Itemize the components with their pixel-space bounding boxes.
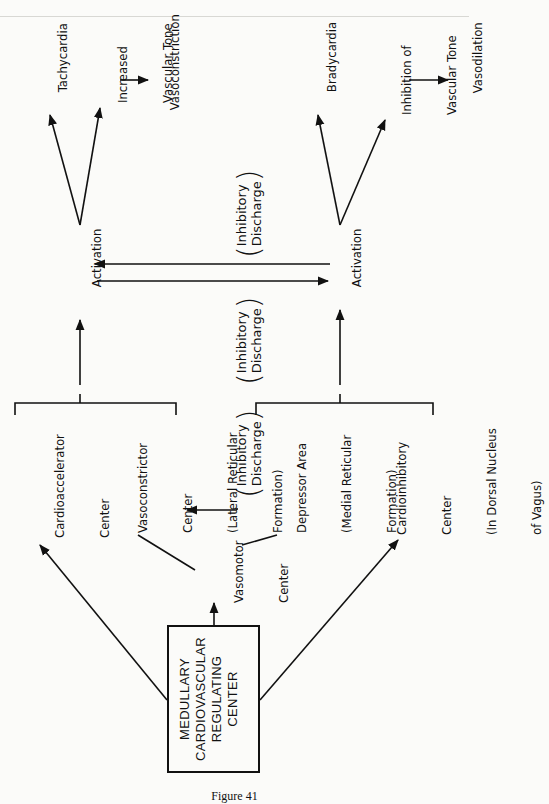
activation-right-label: Activation [334,229,379,302]
vasomotor-center-label: Vasomotor Center [201,541,321,604]
arrow-to-bradycardia [318,115,340,225]
line-vasomotor-to-vasoconstrictor [138,535,195,570]
arrow-to-cardioaccelerator [40,545,167,700]
activation-left-label: Activation [74,229,119,302]
figure-caption: Figure 41 [0,789,469,804]
left-bracket [15,403,176,415]
arrow-to-increased-vascular-tone [80,108,100,225]
arrow-to-tachycardia [50,115,80,225]
tachycardia-label: Tachycardia [40,23,85,107]
bradycardia-label: Bradycardia [309,22,354,107]
inhibitory-discharge-middle-label: (InhibitoryDischarge) [204,296,294,385]
vasoconstriction-label: Vasoconstriction [152,14,197,125]
arrow-to-inhibition-vascular-tone [340,120,385,225]
cardioinhibitory-center-label: Cardioinhibitory Center (In Dorsal Nucle… [364,428,549,535]
vasodilation-label: Vasodilation [455,22,500,108]
medullary-center-label: MEDULLARY CARDIOVASCULAR REGULATING CENT… [177,632,241,766]
inhibitory-discharge-upper-label: (InhibitoryDischarge) [204,169,294,258]
